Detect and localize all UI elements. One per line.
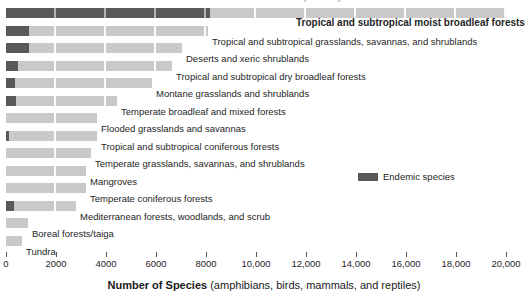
x-axis-tick <box>506 252 507 257</box>
x-axis-tick <box>156 252 157 257</box>
bar-row: Deserts and xeric shrublands <box>0 42 528 60</box>
x-axis-tick <box>106 252 107 257</box>
bar-total-species <box>6 148 91 158</box>
bar-total-species <box>6 218 28 228</box>
x-axis-tick <box>456 252 457 257</box>
bar-row: Temperate broadleaf and mixed forests <box>0 95 528 113</box>
bar-row: Mediterranean forests, woodlands, and sc… <box>0 200 528 218</box>
bar-endemic-species <box>6 131 9 141</box>
bar-endemic-species <box>6 26 29 36</box>
bar-row: Temperate coniferous forests <box>0 182 528 200</box>
legend-swatch-endemic-species <box>358 173 378 181</box>
bar-row: Tropical and subtropical coniferous fore… <box>0 130 528 148</box>
bar-total-species <box>6 78 152 88</box>
bar-endemic-species <box>6 78 15 88</box>
x-axis-tick <box>406 252 407 257</box>
bar-row: Flooded grasslands and savannas <box>0 112 528 130</box>
legend-label-endemic-species: Endemic species <box>383 171 455 182</box>
legend: Endemic species <box>358 171 455 182</box>
x-axis-tick-label: 8000 <box>195 258 216 269</box>
bar-total-species <box>6 236 22 246</box>
x-axis-title-normal: (amphibians, birds, mammals, and reptile… <box>207 279 420 291</box>
bar-endemic-species <box>6 61 18 71</box>
bar-total-species <box>6 113 97 123</box>
clipped-header: Number of species by biome <box>0 0 528 7</box>
bar-endemic-species <box>6 43 29 53</box>
x-axis-tick-label: 2000 <box>45 258 66 269</box>
bar-row: Tropical and subtropical dry broadleaf f… <box>0 60 528 78</box>
x-axis-tick-label: 6000 <box>145 258 166 269</box>
bar-total-species <box>6 183 86 193</box>
bar-row: Temperate grasslands, savannas, and shru… <box>0 147 528 165</box>
x-axis-tick <box>56 252 57 257</box>
x-axis-tick-label: 20,000 <box>491 258 520 269</box>
x-axis-tick-label: 12,000 <box>291 258 320 269</box>
x-axis-tick <box>206 252 207 257</box>
x-axis-tick-label: 0 <box>3 258 8 269</box>
bar-total-species <box>6 43 182 53</box>
x-axis-tick-label: 18,000 <box>441 258 470 269</box>
x-axis-tick-label: 4000 <box>95 258 116 269</box>
x-axis-tick <box>6 252 7 257</box>
bar-total-species <box>6 96 117 106</box>
plot-area: Tropical and subtropical moist broadleaf… <box>0 7 528 250</box>
x-axis-tick-label: 14,000 <box>341 258 370 269</box>
x-axis-tick <box>256 252 257 257</box>
bar-row: Tundra <box>0 235 528 253</box>
bar-total-species <box>6 61 172 71</box>
clipped-header-text: Number of species by biome <box>255 0 369 2</box>
bar-endemic-species <box>6 96 16 106</box>
species-by-biome-chart: Number of species by biome Tropical and … <box>0 0 528 301</box>
bar-total-species <box>6 26 208 36</box>
x-axis-tick-label: 16,000 <box>391 258 420 269</box>
bar-total-species <box>6 166 86 176</box>
x-axis-tick <box>306 252 307 257</box>
bar-endemic-species <box>6 8 210 18</box>
bar-row: Montane grasslands and shrublands <box>0 77 528 95</box>
x-axis-tick <box>356 252 357 257</box>
x-axis-title: Number of Species (amphibians, birds, ma… <box>0 279 528 291</box>
x-axis: 0200040006000800010,00012,00014,00016,00… <box>0 252 528 274</box>
bar-row: Boreal forests/taiga <box>0 217 528 235</box>
x-axis-tick-label: 10,000 <box>241 258 270 269</box>
bar-row: Tropical and subtropical grasslands, sav… <box>0 25 528 43</box>
bar-endemic-species <box>6 201 14 211</box>
bar-row: Tropical and subtropical moist broadleaf… <box>0 7 528 25</box>
bar-total-species <box>6 201 76 211</box>
x-axis-title-bold: Number of Species <box>108 279 208 291</box>
bar-total-species <box>6 131 97 141</box>
